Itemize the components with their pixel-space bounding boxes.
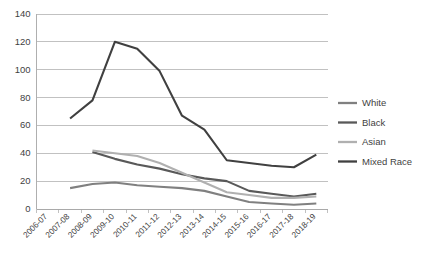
y-axis-tick-label: 80 [20, 92, 31, 103]
y-axis-tick-label: 100 [15, 64, 31, 75]
y-axis-tick-label: 20 [20, 175, 31, 186]
y-axis-tick-label: 60 [20, 119, 31, 130]
y-axis-tick-label: 0 [25, 203, 30, 214]
y-axis-tick-label: 40 [20, 147, 31, 158]
legend-label-mixed-race: Mixed Race [362, 156, 412, 167]
chart-canvas: 020406080100120140 2006-072007-082008-09… [0, 0, 423, 258]
legend-label-black: Black [362, 117, 385, 128]
legend-label-white: White [362, 97, 386, 108]
line-chart: 020406080100120140 2006-072007-082008-09… [0, 0, 423, 258]
y-axis-tick-label: 120 [15, 36, 31, 47]
y-axis-tick-label: 140 [15, 8, 31, 19]
legend-label-asian: Asian [362, 136, 386, 147]
